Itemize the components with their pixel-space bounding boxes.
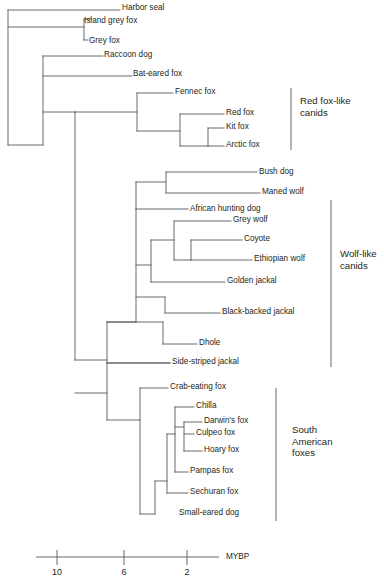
taxon-label: Sechuran fox [190, 487, 238, 496]
taxon-label: Hoary fox [204, 445, 239, 454]
taxon-label: Golden jackal [227, 276, 277, 285]
taxon-label: Bat-eared fox [133, 69, 182, 78]
taxon-label: African hunting dog [190, 204, 261, 213]
axis-tick-label: 6 [114, 567, 134, 577]
taxon-label: Culpeo fox [196, 428, 235, 437]
taxon-label: Harbor seal [122, 3, 164, 12]
clade-label-wolf-like-canids: Wolf-like canids [340, 248, 377, 271]
taxon-label: Bush dog [259, 167, 294, 176]
taxon-label: Chilla [196, 401, 216, 410]
taxon-label: Darwin's fox [204, 416, 248, 425]
taxon-label: Crab-eating fox [170, 382, 226, 391]
taxon-label: Small-eared dog [179, 508, 239, 517]
scale-axis-lines [36, 550, 219, 565]
axis-tick-label: 10 [47, 567, 67, 577]
clade-label-red-fox-like-canids: Red fox-like canids [300, 95, 351, 118]
taxon-label: Pampas fox [190, 466, 233, 475]
taxon-label: Coyote [244, 234, 270, 243]
taxon-label: Dhole [199, 338, 220, 347]
taxon-label: Maned wolf [262, 187, 304, 196]
taxon-label: Side-striped jackal [172, 357, 239, 366]
taxon-label: Grey fox [89, 36, 120, 45]
clade-label-south-american-foxes: South American foxes [292, 424, 333, 459]
phylogenetic-tree-diagram: Harbor sealIsland grey foxGrey foxRaccoo… [0, 0, 384, 584]
taxon-label: Island grey fox [84, 16, 137, 25]
branch-lines [8, 10, 260, 514]
axis-tick-label: 2 [177, 567, 197, 577]
taxon-label: Fennec fox [175, 87, 216, 96]
taxon-label: Ethiopian wolf [254, 254, 305, 263]
taxon-label: Kit fox [226, 122, 249, 131]
taxon-label: Arctic fox [226, 140, 260, 149]
taxon-label: Black-backed jackal [222, 307, 294, 316]
taxon-label: Grey wolf [233, 215, 268, 224]
taxon-label: Red fox [226, 108, 254, 117]
taxon-label: Raccoon dog [104, 50, 152, 59]
axis-unit-label: MYBP [226, 552, 249, 561]
